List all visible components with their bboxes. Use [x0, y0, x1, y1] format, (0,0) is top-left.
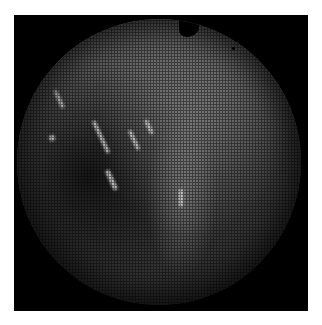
highlight-streak [144, 119, 154, 135]
highlight-streak [53, 89, 65, 109]
highlight-spot [48, 134, 56, 142]
fiberscope-view [17, 19, 301, 305]
highlight-streak [179, 189, 183, 207]
image-frame [14, 15, 308, 311]
debris-dot [232, 47, 235, 50]
highlight-streak [92, 120, 111, 154]
highlight-streak [105, 169, 119, 191]
highlight-streak [128, 129, 141, 151]
vignette [17, 19, 301, 305]
orientation-notch [179, 19, 199, 37]
